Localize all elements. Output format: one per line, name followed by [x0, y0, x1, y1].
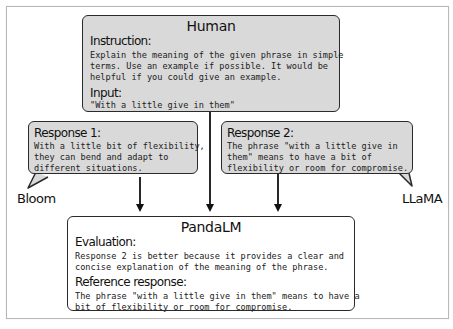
evaluation-label: Evaluation:	[75, 235, 354, 249]
input-label: Input:	[90, 86, 339, 100]
response2-text: The phrase "with a little give in them" …	[227, 141, 412, 174]
reference-label: Reference response:	[75, 275, 354, 289]
reference-text: The phrase "with a little give in them" …	[75, 291, 354, 313]
pandalm-title: PandaLM	[68, 219, 354, 235]
response1-text: With a little bit of flexibility, they c…	[34, 141, 197, 174]
response1-label: Response 1:	[34, 126, 197, 140]
instruction-text: Explain the meaning of the given phrase …	[90, 50, 339, 83]
evaluation-text: Response 2 is better because it provides…	[75, 251, 354, 273]
bloom-label: Bloom	[17, 191, 56, 206]
human-title: Human	[83, 18, 339, 34]
response1-bubble: Response 1: With a little bit of flexibi…	[28, 121, 198, 174]
response2-label: Response 2:	[227, 126, 412, 140]
response2-bubble: Response 2: The phrase "with a little gi…	[221, 121, 413, 174]
bubble-tail-left	[28, 172, 48, 188]
human-box: Human Instruction: Explain the meaning o…	[82, 15, 340, 112]
llama-label: LLaMA	[402, 191, 442, 206]
input-text: "With a little give in them"	[90, 100, 339, 111]
pandalm-box: PandaLM Evaluation: Response 2 is better…	[67, 216, 355, 311]
instruction-label: Instruction:	[90, 34, 339, 48]
